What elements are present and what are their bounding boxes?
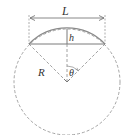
label-theta: θ [69, 67, 74, 78]
label-R: R [37, 66, 45, 78]
label-h: h [69, 32, 74, 43]
label-L: L [61, 4, 69, 18]
circular-segment-diagram: L h R θ [0, 0, 130, 135]
radius-line-left [29, 44, 67, 82]
